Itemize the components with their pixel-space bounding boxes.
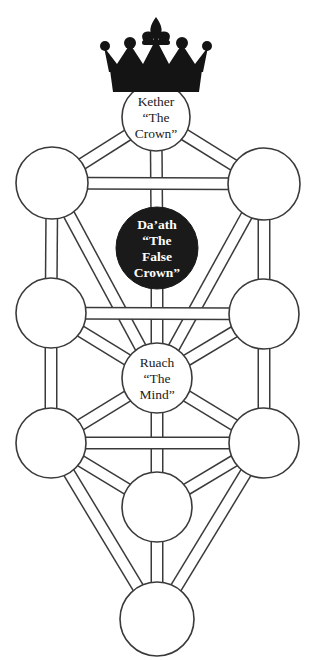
tree-path-kether-chokmah: [183, 134, 235, 166]
tree-path-kether-binah: [81, 134, 129, 165]
yesod-sephirah: [122, 472, 192, 542]
daath-sephirah: [116, 207, 198, 289]
binah-sephirah: [16, 147, 88, 219]
tree-of-life-diagram: Kether“TheCrown”Da’ath“TheFalseCrown”Rua…: [0, 0, 312, 660]
kether-sephirah: [122, 83, 190, 151]
crown-icon: [100, 17, 212, 92]
hod-sephirah: [16, 408, 86, 478]
tiphereth-ruach-sephirah: [122, 343, 192, 413]
geburah-sephirah: [16, 278, 86, 348]
tree-path-netzach-yesod: [185, 460, 235, 490]
chesed-sephirah: [229, 279, 299, 349]
tree-of-life-canvas: Kether“TheCrown”Da’ath“TheFalseCrown”Rua…: [0, 0, 312, 660]
tree-path-tiphereth-hod: [79, 395, 129, 425]
malkuth-sephirah: [120, 582, 194, 656]
tree-path-geburah-chesed: [84, 313, 231, 314]
tree-path-hod-yesod: [79, 460, 128, 490]
crown-layer: [100, 17, 212, 92]
netzach-sephirah: [229, 408, 299, 478]
tree-path-geburah-tiphereth: [79, 330, 129, 360]
tree-path-chesed-tiphereth: [185, 331, 235, 361]
tree-path-binah-chokmah: [86, 183, 230, 184]
chokmah-sephirah: [228, 148, 300, 220]
tree-path-tiphereth-netzach: [185, 395, 236, 426]
